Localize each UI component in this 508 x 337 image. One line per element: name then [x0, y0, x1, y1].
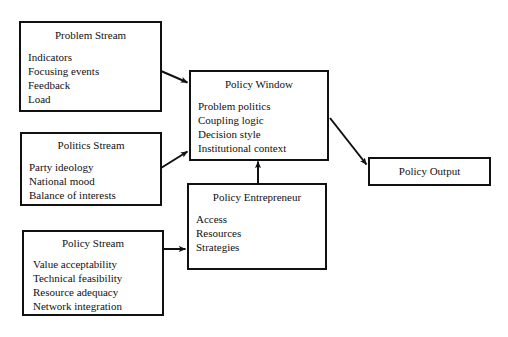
list-item: Indicators [28, 50, 160, 64]
list-item: Decision style [198, 127, 327, 141]
node-policy-entrepreneur-title: Policy Entrepreneur [189, 191, 325, 204]
list-item: Coupling logic [198, 113, 327, 127]
node-policy-entrepreneur-items: Access Resources Strategies [189, 212, 325, 254]
node-policy-stream-title: Policy Stream [24, 237, 162, 250]
node-problem-stream-items: Indicators Focusing events Feedback Load [21, 50, 160, 106]
edge-policy-window-to-policy-output [330, 118, 367, 165]
list-item: Institutional context [198, 141, 327, 155]
node-policy-window-title: Policy Window [191, 78, 327, 91]
node-politics-stream: Politics Stream Party ideology National … [20, 132, 162, 206]
node-policy-entrepreneur: Policy Entrepreneur Access Resources Str… [187, 183, 327, 270]
node-problem-stream: Problem Stream Indicators Focusing event… [19, 21, 162, 112]
policy-framework-diagram: Problem Stream Indicators Focusing event… [0, 0, 508, 337]
list-item: Balance of interests [29, 188, 160, 202]
list-item: National mood [29, 174, 160, 188]
node-policy-window-items: Problem politics Coupling logic Decision… [191, 99, 327, 155]
list-item: Problem politics [198, 99, 327, 113]
list-item: Focusing events [28, 64, 160, 78]
list-item: Feedback [28, 78, 160, 92]
edge-problem-stream-to-policy-window [161, 71, 188, 83]
list-item: Access [196, 212, 325, 226]
list-item: Resource adequacy [33, 285, 162, 299]
list-item: Load [28, 92, 160, 106]
node-problem-stream-title: Problem Stream [21, 29, 160, 42]
list-item: Network integration [33, 299, 162, 313]
list-item: Resources [196, 226, 325, 240]
node-policy-stream-items: Value acceptability Technical feasibilit… [24, 257, 162, 313]
list-item: Technical feasibility [33, 271, 162, 285]
node-politics-stream-items: Party ideology National mood Balance of … [22, 160, 160, 202]
list-item: Strategies [196, 240, 325, 254]
list-item: Party ideology [29, 160, 160, 174]
node-policy-window: Policy Window Problem politics Coupling … [189, 70, 329, 161]
node-policy-stream: Policy Stream Value acceptability Techni… [22, 230, 164, 316]
node-politics-stream-title: Politics Stream [22, 139, 160, 152]
list-item: Value acceptability [33, 257, 162, 271]
node-policy-output: Policy Output [368, 157, 491, 186]
edge-politics-stream-to-policy-window [161, 152, 188, 169]
node-policy-output-title: Policy Output [399, 165, 460, 178]
